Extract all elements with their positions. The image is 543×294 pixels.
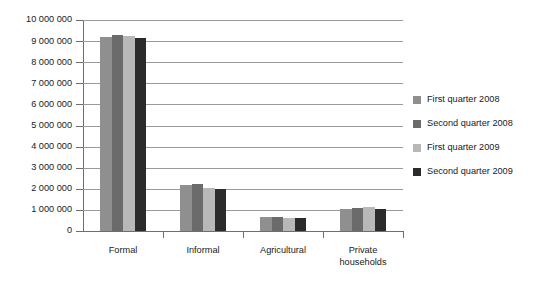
- y-axis-tick: [76, 20, 83, 21]
- x-axis-category-label: Agricultural: [243, 245, 323, 257]
- y-axis-tick-label: 0: [2, 226, 72, 235]
- x-axis-category-label: Informal: [163, 245, 243, 257]
- legend-item-label: Second quarter 2008: [427, 119, 513, 128]
- y-axis-tick: [76, 62, 83, 63]
- x-axis-separator-tick: [243, 231, 244, 238]
- legend-item[interactable]: First quarter 2009: [413, 136, 543, 160]
- bar: [203, 188, 215, 231]
- y-axis-tick-label: 5 000 000: [2, 121, 72, 130]
- x-axis-category-label-line: households: [323, 257, 403, 269]
- y-axis-tick: [76, 168, 83, 169]
- y-axis-labels: 10 000 0009 000 0008 000 0007 000 0006 0…: [0, 0, 72, 294]
- bar: [260, 217, 272, 231]
- y-axis-tick-label: 4 000 000: [2, 142, 72, 151]
- y-axis-tick-label: 1 000 000: [2, 205, 72, 214]
- bar: [340, 209, 352, 231]
- y-axis-tick: [76, 231, 83, 232]
- legend-item[interactable]: Second quarter 2009: [413, 160, 543, 184]
- y-axis-tick: [76, 41, 83, 42]
- x-axis-separator-tick: [323, 231, 324, 238]
- bar-group: [180, 20, 226, 231]
- y-axis-tick-label: 9 000 000: [2, 37, 72, 46]
- bar: [375, 209, 387, 231]
- bar-group: [260, 20, 306, 231]
- bar: [112, 35, 124, 231]
- y-axis-tick: [76, 189, 83, 190]
- bar: [192, 184, 204, 231]
- legend-swatch-icon: [413, 144, 421, 152]
- legend-item-label: First quarter 2009: [427, 143, 500, 152]
- y-axis-tick-label: 2 000 000: [2, 184, 72, 193]
- y-axis-tick-label: 10 000 000: [2, 15, 72, 24]
- y-axis-tick-label: 6 000 000: [2, 100, 72, 109]
- bar-group: [340, 20, 386, 231]
- legend-item[interactable]: First quarter 2008: [413, 88, 543, 112]
- legend-item-label: First quarter 2008: [427, 95, 500, 104]
- y-axis-tick-label: 8 000 000: [2, 58, 72, 67]
- legend-swatch-icon: [413, 168, 421, 176]
- y-axis-tick: [76, 104, 83, 105]
- legend-item-label: Second quarter 2009: [427, 167, 513, 176]
- bar: [215, 189, 227, 231]
- legend-swatch-icon: [413, 96, 421, 104]
- x-axis-separator-tick: [403, 231, 404, 238]
- x-axis-category-label-line: Private: [323, 245, 403, 257]
- legend-swatch-icon: [413, 120, 421, 128]
- x-axis-category-label-line: Agricultural: [243, 245, 323, 257]
- plot-area: [83, 20, 403, 231]
- bar: [100, 37, 112, 231]
- bar: [352, 208, 364, 231]
- bar: [123, 36, 135, 231]
- bar: [283, 218, 295, 232]
- bar: [295, 218, 307, 231]
- y-axis-tick: [76, 126, 83, 127]
- x-axis-separator-tick: [163, 231, 164, 238]
- bar-group: [100, 20, 146, 231]
- x-axis-category-label-line: Formal: [83, 245, 163, 257]
- bar-chart: 10 000 0009 000 0008 000 0007 000 0006 0…: [0, 0, 543, 294]
- y-axis-tick: [76, 83, 83, 84]
- y-axis-tick-label: 7 000 000: [2, 79, 72, 88]
- bar: [363, 207, 375, 231]
- bar: [135, 38, 147, 231]
- chart-legend: First quarter 2008Second quarter 2008Fir…: [413, 88, 543, 184]
- x-axis-category-label: Privatehouseholds: [323, 245, 403, 268]
- x-axis-category-label-line: Informal: [163, 245, 243, 257]
- legend-item[interactable]: Second quarter 2008: [413, 112, 543, 136]
- y-axis-tick: [76, 210, 83, 211]
- x-axis-category-label: Formal: [83, 245, 163, 257]
- y-axis-tick-label: 3 000 000: [2, 163, 72, 172]
- bar: [272, 217, 284, 231]
- y-axis-tick: [76, 147, 83, 148]
- bar: [180, 185, 192, 231]
